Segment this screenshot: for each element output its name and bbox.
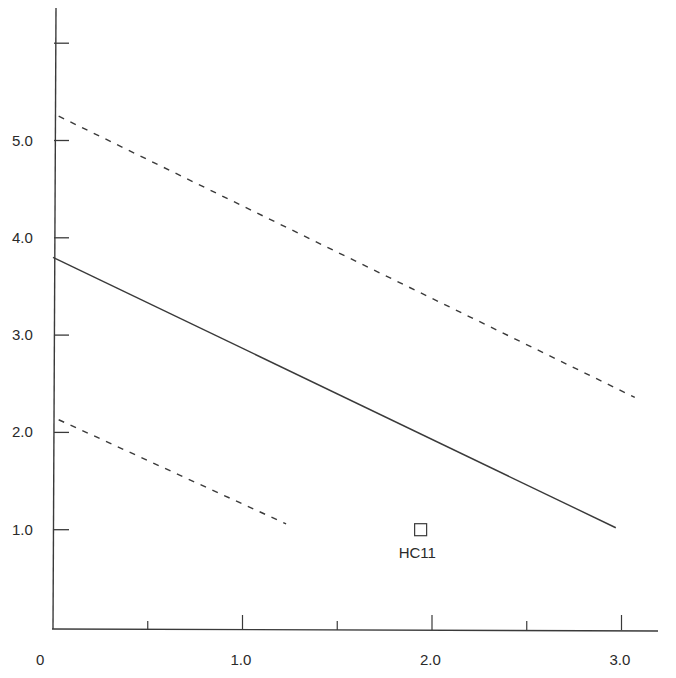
y-tick-label: 4.0 xyxy=(12,229,33,246)
x-tick-label: 0 xyxy=(36,651,44,668)
axes: 1.02.03.04.05.001.02.03.0 xyxy=(12,8,658,668)
x-tick-label: 1.0 xyxy=(231,651,252,668)
y-tick-label: 1.0 xyxy=(12,521,33,538)
x-tick-label: 2.0 xyxy=(420,651,441,668)
x-axis xyxy=(52,629,658,631)
point-label: HC11 xyxy=(399,544,436,561)
confidence-bound-line xyxy=(59,116,635,397)
x-tick-label: 3.0 xyxy=(610,651,631,668)
confidence-bound-line xyxy=(59,420,286,524)
y-tick-label: 2.0 xyxy=(12,423,33,440)
regression-line xyxy=(53,257,616,527)
open-square-marker xyxy=(415,524,427,536)
chart-canvas: 1.02.03.04.05.001.02.03.0 HC11 xyxy=(0,0,676,678)
y-tick-label: 5.0 xyxy=(12,132,33,149)
series-layer xyxy=(53,116,635,528)
points-layer: HC11 xyxy=(399,524,436,561)
y-tick-label: 3.0 xyxy=(12,326,33,343)
y-axis xyxy=(53,8,56,629)
